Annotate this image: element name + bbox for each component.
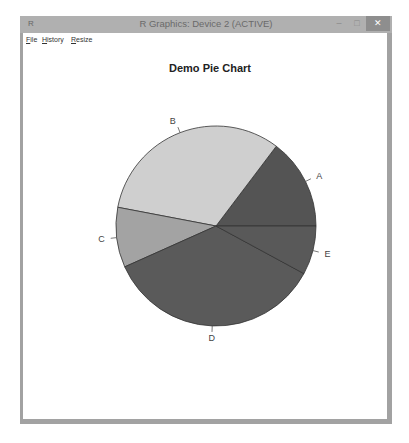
- pie-label-a: A: [316, 171, 322, 181]
- label-tick: [313, 251, 319, 252]
- menu-history[interactable]: History: [42, 36, 64, 43]
- r-graphics-window: R R Graphics: Device 2 (ACTIVE) – □ ✕ Fi…: [20, 16, 392, 424]
- graphics-device-area: File History Resize Demo Pie Chart ABCDE: [23, 33, 387, 419]
- menu-bar: File History Resize: [23, 33, 387, 46]
- pie-label-d: D: [209, 333, 216, 343]
- pie-label-e: E: [325, 249, 331, 259]
- menu-history-label: istory: [47, 36, 64, 43]
- menu-resize-label: esize: [76, 36, 92, 43]
- pie-label-c: C: [98, 234, 105, 244]
- menu-resize[interactable]: Resize: [71, 36, 92, 43]
- label-tick: [306, 179, 311, 182]
- pie-slices: [116, 126, 316, 326]
- menu-file-label: ile: [30, 36, 37, 43]
- label-tick: [178, 127, 180, 133]
- label-tick: [111, 238, 117, 239]
- pie-chart: Demo Pie Chart ABCDE: [23, 46, 387, 419]
- maximize-button[interactable]: □: [348, 16, 366, 31]
- minimize-button[interactable]: –: [330, 16, 348, 31]
- title-bar[interactable]: R R Graphics: Device 2 (ACTIVE) – □ ✕: [20, 16, 392, 33]
- pie-label-b: B: [170, 116, 176, 126]
- close-button[interactable]: ✕: [366, 16, 390, 31]
- menu-file[interactable]: File: [26, 36, 37, 43]
- chart-title: Demo Pie Chart: [169, 62, 251, 74]
